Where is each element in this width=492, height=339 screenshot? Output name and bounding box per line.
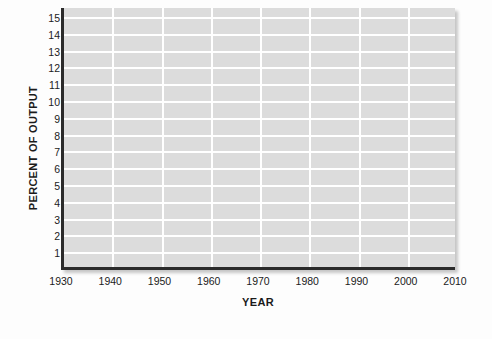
y-axis-tick-label: 8 xyxy=(36,130,60,141)
y-axis-tick-label: 1 xyxy=(36,248,60,259)
y-axis-tick-label: 11 xyxy=(36,80,60,91)
x-axis-tick-label: 1940 xyxy=(99,276,122,287)
gridline-vertical xyxy=(309,8,311,267)
x-axis-tick-label: 2010 xyxy=(443,276,466,287)
y-axis-tick-label: 2 xyxy=(36,231,60,242)
y-axis-tick-label: 14 xyxy=(36,30,60,41)
gridline-vertical xyxy=(359,8,361,267)
y-axis-tick-label: 15 xyxy=(36,13,60,24)
gridline-vertical xyxy=(211,8,213,267)
y-axis-tick-label: 5 xyxy=(36,181,60,192)
x-axis-tick-label: 1970 xyxy=(246,276,269,287)
x-axis-tick-label: 1950 xyxy=(148,276,171,287)
x-axis-tick-label: 1980 xyxy=(296,276,319,287)
gridline-vertical xyxy=(408,8,410,267)
y-axis-tick-label: 13 xyxy=(36,46,60,57)
y-axis-tick-label: 10 xyxy=(36,97,60,108)
chart-figure: PERCENT OF OUTPUT 123456789101112131415 … xyxy=(0,0,492,339)
x-axis-title: YEAR xyxy=(61,296,455,308)
y-axis-tick-label: 6 xyxy=(36,164,60,175)
y-axis-tick-label: 9 xyxy=(36,114,60,125)
y-axis-tick-labels: 123456789101112131415 xyxy=(36,8,60,270)
x-axis-tick-label: 1960 xyxy=(197,276,220,287)
gridline-vertical xyxy=(112,8,114,267)
x-axis-tick-label: 1930 xyxy=(49,276,72,287)
plot-area xyxy=(64,8,455,267)
y-axis-tick-label: 7 xyxy=(36,147,60,158)
y-axis-tick-label: 4 xyxy=(36,198,60,209)
gridline-vertical xyxy=(260,8,262,267)
x-axis-tick-label: 2000 xyxy=(394,276,417,287)
gridline-vertical xyxy=(162,8,164,267)
plot-frame xyxy=(61,8,455,270)
x-axis-tick-labels: 193019401950196019701980199020002010 xyxy=(61,276,455,292)
y-axis-tick-label: 3 xyxy=(36,214,60,225)
y-axis-tick-label: 12 xyxy=(36,63,60,74)
x-axis-tick-label: 1990 xyxy=(345,276,368,287)
